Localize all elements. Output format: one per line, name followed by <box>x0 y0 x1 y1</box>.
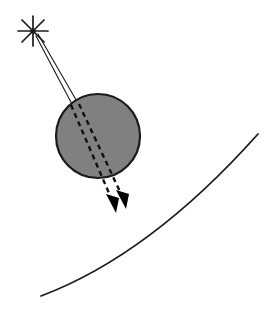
star-core <box>30 28 35 33</box>
diagram-canvas <box>0 0 275 310</box>
ray-diagram-svg <box>0 0 275 310</box>
star-source-icon <box>18 16 48 46</box>
